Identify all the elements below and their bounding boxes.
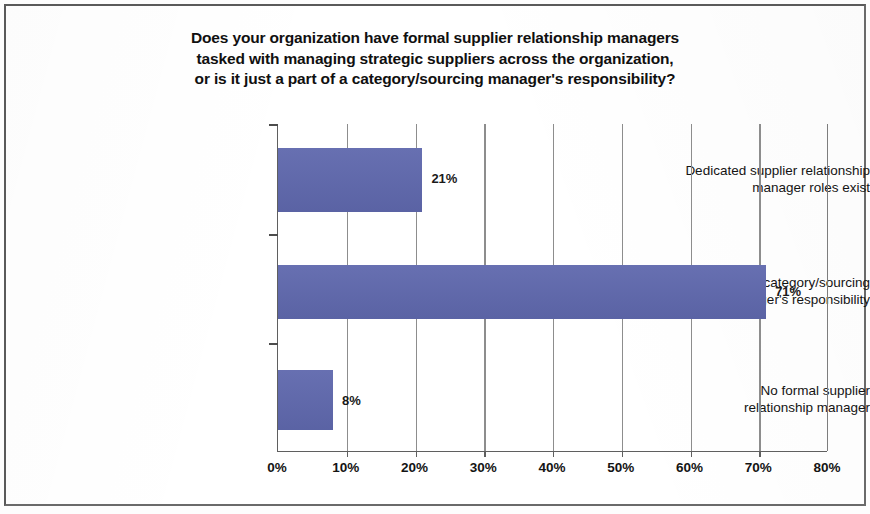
xtick-label-80: 80% xyxy=(797,460,857,475)
xtick-label-40: 40% xyxy=(522,460,582,475)
xtick-label-0: 0% xyxy=(247,460,307,475)
xtick-label-20: 20% xyxy=(385,460,445,475)
xtick-label-30: 30% xyxy=(453,460,513,475)
xtick-label-70: 70% xyxy=(728,460,788,475)
chart-page: Does your organization have formal suppl… xyxy=(0,0,870,514)
xtick-label-60: 60% xyxy=(660,460,720,475)
xtick-label-10: 10% xyxy=(316,460,376,475)
xtick-label-50: 50% xyxy=(591,460,651,475)
value-axis-tick-labels: 0%10%20%30%40%50%60%70%80% xyxy=(0,0,870,514)
